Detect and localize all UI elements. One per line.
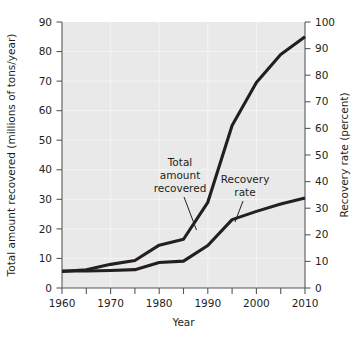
annotation-recovery-line2: rate: [234, 186, 255, 198]
left-tick-10: 10: [39, 252, 52, 264]
left-axis-title: Total amount recovered (millions of tons…: [5, 34, 17, 278]
right-tick-90: 90: [315, 42, 328, 54]
right-tick-50: 50: [315, 149, 328, 161]
x-tick-2000: 2000: [243, 297, 270, 309]
left-tick-30: 30: [39, 193, 52, 205]
x-tick-1970: 1970: [97, 297, 124, 309]
left-tick-60: 60: [39, 104, 52, 116]
right-tick-100: 100: [315, 16, 335, 28]
left-tick-40: 40: [39, 163, 52, 175]
left-tick-50: 50: [39, 134, 52, 146]
x-tick-1980: 1980: [146, 297, 173, 309]
x-axis-title: Year: [171, 316, 195, 328]
annotation-total-line3: recovered: [154, 182, 207, 194]
right-tick-30: 30: [315, 202, 328, 214]
right-tick-0: 0: [315, 282, 322, 294]
right-tick-80: 80: [315, 69, 328, 81]
right-axis-title: Recovery rate (percent): [338, 92, 350, 217]
left-tick-80: 80: [39, 45, 52, 57]
annotation-total-line2: amount: [160, 169, 201, 181]
right-tick-40: 40: [315, 175, 328, 187]
x-tick-2010: 2010: [292, 297, 319, 309]
left-tick-90: 90: [39, 16, 52, 28]
chart-container: 0 10 20 30 40 50 60 70 80 90 Total amoun…: [0, 0, 356, 342]
left-tick-70: 70: [39, 75, 52, 87]
annotation-recovery-line1: Recovery: [221, 173, 270, 185]
x-tick-1990: 1990: [194, 297, 221, 309]
left-tick-0: 0: [45, 282, 52, 294]
annotation-total-line1: Total: [167, 156, 193, 168]
x-tick-1960: 1960: [49, 297, 76, 309]
plot-area-background: [62, 22, 305, 288]
right-tick-60: 60: [315, 122, 328, 134]
right-tick-70: 70: [315, 95, 328, 107]
right-tick-10: 10: [315, 255, 328, 267]
right-tick-20: 20: [315, 228, 328, 240]
left-tick-20: 20: [39, 223, 52, 235]
